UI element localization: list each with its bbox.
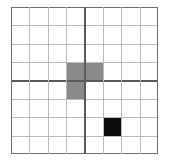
grid-cell[interactable]: [11, 81, 29, 99]
grid-cell[interactable]: [85, 44, 103, 62]
grid-cell[interactable]: [103, 44, 121, 62]
grid-cell[interactable]: [11, 136, 29, 154]
grid-cell[interactable]: [29, 136, 47, 154]
grid-cell[interactable]: [29, 117, 47, 135]
grid-cell[interactable]: [121, 136, 139, 154]
grid-cell[interactable]: [121, 81, 139, 99]
grid-cell[interactable]: [11, 25, 29, 43]
grid-cell[interactable]: [103, 81, 121, 99]
grid-cell[interactable]: [29, 44, 47, 62]
grid-cell[interactable]: [66, 62, 84, 80]
grid-cell[interactable]: [103, 62, 121, 80]
grid-cell[interactable]: [85, 62, 103, 80]
grid-cell[interactable]: [140, 117, 158, 135]
grid-cell[interactable]: [11, 44, 29, 62]
grid-cell[interactable]: [85, 25, 103, 43]
grid-cell[interactable]: [29, 62, 47, 80]
grid-cell[interactable]: [85, 99, 103, 117]
grid-cell[interactable]: [66, 117, 84, 135]
grid-cell[interactable]: [121, 117, 139, 135]
grid-cell[interactable]: [140, 7, 158, 25]
grid-cell[interactable]: [66, 7, 84, 25]
grid-cell[interactable]: [29, 81, 47, 99]
grid-cell[interactable]: [66, 81, 84, 99]
grid-cell[interactable]: [11, 62, 29, 80]
grid-cell[interactable]: [121, 62, 139, 80]
grid-cell[interactable]: [140, 62, 158, 80]
grid-cell[interactable]: [11, 117, 29, 135]
grid-cell[interactable]: [85, 136, 103, 154]
grid-cell[interactable]: [121, 99, 139, 117]
grid-cell[interactable]: [66, 25, 84, 43]
grid-figure: [0, 0, 170, 167]
grid-cell[interactable]: [48, 62, 66, 80]
grid-cell[interactable]: [140, 44, 158, 62]
grid-cell[interactable]: [48, 7, 66, 25]
grid-cells-layer: [11, 7, 158, 154]
grid-board[interactable]: [11, 7, 158, 154]
grid-cell[interactable]: [140, 25, 158, 43]
grid-cell[interactable]: [103, 99, 121, 117]
grid-cell[interactable]: [85, 81, 103, 99]
grid-cell[interactable]: [140, 99, 158, 117]
grid-cell[interactable]: [48, 117, 66, 135]
grid-cell[interactable]: [29, 99, 47, 117]
grid-cell[interactable]: [140, 136, 158, 154]
grid-cell[interactable]: [66, 136, 84, 154]
grid-cell[interactable]: [103, 117, 121, 135]
grid-cell[interactable]: [48, 99, 66, 117]
grid-cell[interactable]: [11, 7, 29, 25]
grid-cell[interactable]: [121, 7, 139, 25]
grid-cell[interactable]: [29, 7, 47, 25]
grid-cell[interactable]: [121, 25, 139, 43]
grid-cell[interactable]: [66, 44, 84, 62]
grid-cell[interactable]: [66, 99, 84, 117]
grid-cell[interactable]: [48, 44, 66, 62]
grid-cell[interactable]: [140, 81, 158, 99]
grid-cell[interactable]: [29, 25, 47, 43]
grid-cell[interactable]: [85, 7, 103, 25]
grid-cell[interactable]: [103, 7, 121, 25]
grid-cell[interactable]: [103, 25, 121, 43]
grid-cell[interactable]: [85, 117, 103, 135]
grid-cell[interactable]: [121, 44, 139, 62]
grid-cell[interactable]: [103, 136, 121, 154]
grid-cell[interactable]: [11, 99, 29, 117]
grid-cell[interactable]: [48, 136, 66, 154]
grid-cell[interactable]: [48, 81, 66, 99]
grid-cell[interactable]: [48, 25, 66, 43]
